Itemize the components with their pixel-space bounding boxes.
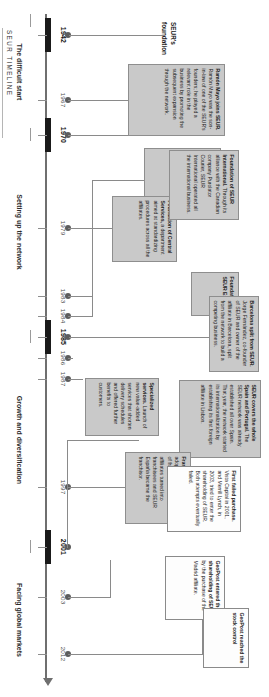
tick-2001 xyxy=(38,547,47,548)
tick-1967 xyxy=(38,100,47,101)
event-body-barcelona-split: Jorge Fernández, co-founder of SEUR and … xyxy=(213,301,248,367)
era-label-difficult-start: The difficult start xyxy=(16,44,23,101)
tick-2012 xyxy=(38,654,47,655)
connector-2001-riser xyxy=(67,440,139,441)
event-box-central-services[interactable]: Foundation of Central Services, a depart… xyxy=(112,196,177,262)
connector-1985 xyxy=(69,337,209,338)
event-box-first-failed-purchase[interactable]: First failed purchase. Vista Capital in … xyxy=(167,466,241,532)
tick-1983 xyxy=(38,296,47,297)
event-heading-barcelona-split: Barcelona split from SEUR. xyxy=(249,301,255,367)
era-separator-4 xyxy=(30,540,31,553)
connector-2003 xyxy=(68,597,111,598)
connector-1979 xyxy=(68,228,112,229)
connector-1984-arm xyxy=(92,270,93,317)
connector-2001 xyxy=(67,440,68,548)
connector-1986 xyxy=(68,358,73,359)
event-box-barcelona-split[interactable]: Barcelona split from SEUR. Jorge Fernánd… xyxy=(209,296,259,372)
tick-1984 xyxy=(38,316,47,317)
tick-1979 xyxy=(38,228,47,229)
event-body-spain-portugal: The SEUR network was already established… xyxy=(200,385,249,452)
event-body-geopost-shareholding: by the purchase of the Madrid affiliate. xyxy=(193,561,206,611)
tick-1970 xyxy=(38,135,47,136)
tick-1942 xyxy=(38,35,47,36)
connector-1967 xyxy=(68,100,128,101)
era-label-facing-global-markets: Facing global markets xyxy=(16,583,23,657)
connector-2003-arm xyxy=(110,560,111,598)
event-box-seur-international[interactable]: Foundation of SEUR International. Throug… xyxy=(169,150,239,220)
event-box-geopost-stock-control[interactable]: GeoPost reached the stock control xyxy=(203,608,249,668)
event-box-ramon-mayo[interactable]: Ramón Mayo joins SEUR. Ramón Mayo was th… xyxy=(128,64,225,136)
timeline-axis-arrow-icon xyxy=(43,678,53,686)
connector-1997 xyxy=(68,487,125,488)
seur-foundation-label-line2: foundation xyxy=(161,22,168,55)
event-box-specialized-services[interactable]: Specialized services. Launch of new valu… xyxy=(85,378,159,436)
event-body-specialized-services: Launch of new value-added services that … xyxy=(98,383,147,430)
tick-1985 xyxy=(38,337,47,338)
connector-1942-stem xyxy=(69,35,165,36)
event-heading-geopost-shareholding: GeoPost entered the shareholding of SEUR xyxy=(208,561,221,615)
tick-1987 xyxy=(38,379,47,380)
connector-1987-stem xyxy=(68,379,83,380)
seur-foundation-label-line1: SEUR's xyxy=(170,22,177,45)
event-body-first-failed-purchase: Vista Capital in 2001, and Merrill Lynch… xyxy=(188,471,230,527)
tick-1997 xyxy=(38,487,47,488)
event-heading-geopost-stock-control: GeoPost reached the stock control xyxy=(232,613,245,664)
seur-foundation-label: SEUR's foundation xyxy=(160,22,177,55)
event-body-ramon-mayo: Ramón Mayo was the son-in-law of one of … xyxy=(164,69,213,131)
tick-1986 xyxy=(38,358,47,359)
connector-2012 xyxy=(68,654,203,655)
timeline-infographic: SEUR TIMELINE SEUR's foundation The diff… xyxy=(0,0,269,697)
tick-2003 xyxy=(38,597,47,598)
event-heading-ramon-mayo: Ramón Mayo joins SEUR. xyxy=(215,69,221,131)
connector-1983-stem xyxy=(68,296,93,297)
connector-1984 xyxy=(68,316,93,317)
era-separator-3 xyxy=(30,330,31,343)
era-label-setting-up-network: Setting up the network xyxy=(16,194,23,269)
era-separator-2 xyxy=(30,128,31,141)
title-rule xyxy=(2,28,3,138)
era-separator-1 xyxy=(30,14,31,27)
era-label-growth-diversification: Growth and diversification xyxy=(16,396,23,484)
event-box-spain-portugal[interactable]: SEUR covers the whole Spain and Portugal… xyxy=(179,380,261,458)
event-heading-first-failed-purchase: First failed purchase. xyxy=(231,471,237,522)
timeline-title: SEUR TIMELINE xyxy=(6,30,13,96)
